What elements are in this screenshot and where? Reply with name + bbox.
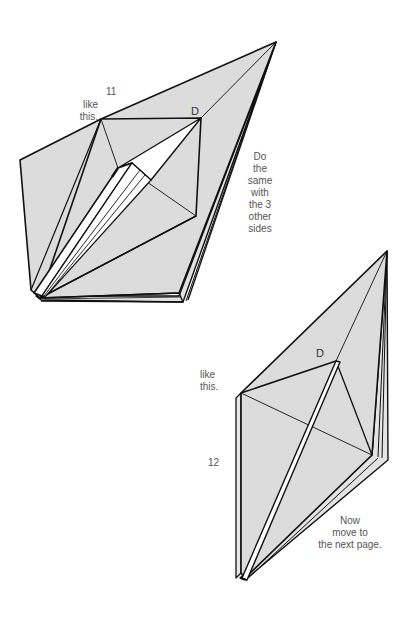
caption-now-move: Now move to the next page. [310,515,390,551]
caption-do-the-same: Do the same with the 3 other sides [239,151,281,235]
vertex-label-d-12: D [316,347,324,359]
figure-11-drawing [20,42,276,302]
step-number-11: 11 [106,86,116,97]
vertex-label-d-11: D [191,105,199,117]
caption-like-this-11: like this. [68,99,98,123]
caption-like-this-12: like this. [200,369,230,393]
step-number-12: 12 [208,457,219,468]
